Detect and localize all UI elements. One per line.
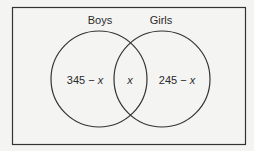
girls-label: Girls (150, 14, 173, 26)
boys-only-region: 345 − x (67, 74, 104, 86)
intersection-region: x (126, 74, 133, 86)
girls-only-region: 245 − x (159, 74, 196, 86)
venn-diagram: Boys Girls 345 − x x 245 − x (0, 0, 254, 151)
boys-label: Boys (88, 14, 113, 26)
